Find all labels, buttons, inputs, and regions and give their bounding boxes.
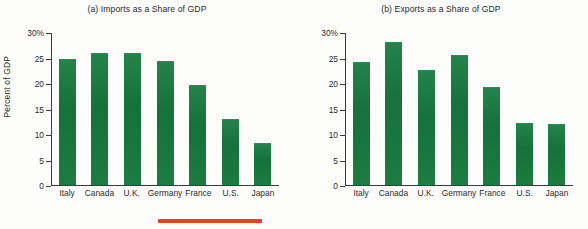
bar-slot bbox=[116, 33, 149, 185]
panel-b-title: (b) Exports as a Share of GDP bbox=[294, 4, 588, 14]
panel-a-y-axis-label: Percent of GDP bbox=[2, 56, 16, 117]
x-tick-label: Italy bbox=[345, 188, 377, 198]
bar-italy bbox=[59, 59, 76, 185]
panel-b-x-labels: ItalyCanadaU.K.GermanyFranceU.S.Japan bbox=[345, 188, 573, 198]
panel-exports: (b) Exports as a Share of GDP Percent of… bbox=[294, 0, 588, 200]
bar-france bbox=[483, 87, 500, 185]
panel-b-tick-label-20: 20 bbox=[329, 79, 338, 89]
x-tick-label: U.S. bbox=[215, 188, 247, 198]
x-tick-label: U.K. bbox=[116, 188, 148, 198]
panel-b-tick-label-30: 30% bbox=[321, 28, 338, 38]
panel-a-x-labels: ItalyCanadaU.K.GermanyFranceU.S.Japan bbox=[51, 188, 279, 198]
bar-us bbox=[222, 119, 239, 185]
bar-slot bbox=[149, 33, 182, 185]
bar-slot bbox=[508, 33, 541, 185]
panel-imports: (a) Imports as a Share of GDP Percent of… bbox=[0, 0, 294, 200]
x-tick-label: Germany bbox=[148, 188, 182, 198]
panel-a-tick-label-20: 20 bbox=[35, 79, 44, 89]
panels-container: (a) Imports as a Share of GDP Percent of… bbox=[0, 0, 588, 200]
panel-a-plot-area: 30% 25 20 15 10 5 0 bbox=[51, 33, 279, 186]
red-highlight-underline bbox=[158, 219, 262, 223]
bar-slot bbox=[378, 33, 411, 185]
panel-a-tick-label-25: 25 bbox=[35, 54, 44, 64]
bar-slot bbox=[181, 33, 214, 185]
bar-slot bbox=[246, 33, 279, 185]
panel-b-plot-area: 30% 25 20 15 10 5 0 bbox=[345, 33, 573, 186]
bar-slot bbox=[51, 33, 84, 185]
panel-a-tick-0 bbox=[46, 186, 51, 187]
panel-b-x-axis bbox=[345, 185, 573, 186]
panel-a-tick-label-5: 5 bbox=[39, 156, 44, 166]
panel-b-tick-label-25: 25 bbox=[329, 54, 338, 64]
bar-slot bbox=[443, 33, 476, 185]
bar-italy bbox=[353, 62, 370, 185]
panel-b-tick-label-10: 10 bbox=[329, 130, 338, 140]
bar-canada bbox=[385, 42, 402, 185]
x-tick-label: Japan bbox=[247, 188, 279, 198]
bar-slot bbox=[345, 33, 378, 185]
panel-b-bars bbox=[345, 33, 573, 185]
panel-a-tick-label-30: 30% bbox=[27, 28, 44, 38]
bar-us bbox=[516, 123, 533, 185]
bar-slot bbox=[475, 33, 508, 185]
panel-b-tick-label-0: 0 bbox=[333, 181, 338, 191]
figure-root: (a) Imports as a Share of GDP Percent of… bbox=[0, 0, 588, 229]
panel-a-title: (a) Imports as a Share of GDP bbox=[0, 4, 294, 14]
bar-slot bbox=[410, 33, 443, 185]
panel-a-tick-label-0: 0 bbox=[39, 181, 44, 191]
bar-slot bbox=[84, 33, 117, 185]
bar-uk bbox=[124, 53, 141, 185]
bar-uk bbox=[418, 70, 435, 185]
bar-germany bbox=[451, 55, 468, 185]
x-tick-label: France bbox=[476, 188, 508, 198]
x-tick-label: U.K. bbox=[410, 188, 442, 198]
panel-b-tick-label-5: 5 bbox=[333, 156, 338, 166]
panel-a-bars bbox=[51, 33, 279, 185]
x-tick-label: Italy bbox=[51, 188, 83, 198]
panel-a-tick-label-15: 15 bbox=[35, 105, 44, 115]
bar-canada bbox=[91, 53, 108, 185]
bar-slot bbox=[214, 33, 247, 185]
panel-a-tick-label-10: 10 bbox=[35, 130, 44, 140]
x-tick-label: France bbox=[182, 188, 214, 198]
x-tick-label: Japan bbox=[541, 188, 573, 198]
bar-japan bbox=[548, 124, 565, 185]
panel-b-tick-0 bbox=[340, 186, 345, 187]
x-tick-label: Germany bbox=[442, 188, 476, 198]
panel-a-x-axis bbox=[51, 185, 279, 186]
panel-b-tick-label-15: 15 bbox=[329, 105, 338, 115]
x-tick-label: U.S. bbox=[509, 188, 541, 198]
bar-germany bbox=[157, 61, 174, 185]
x-tick-label: Canada bbox=[83, 188, 115, 198]
bar-slot bbox=[540, 33, 573, 185]
x-tick-label: Canada bbox=[377, 188, 409, 198]
bar-japan bbox=[254, 143, 271, 185]
bar-france bbox=[189, 85, 206, 185]
